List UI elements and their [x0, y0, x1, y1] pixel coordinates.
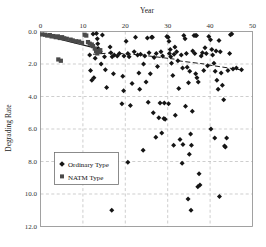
- x-tick-label: 10: [79, 22, 87, 30]
- chart-background: [0, 0, 266, 247]
- data-point-natm: [59, 59, 63, 63]
- legend-marker-square: [60, 174, 64, 178]
- y-tick-label: 2.0: [28, 60, 37, 68]
- legend: Ordinary Type NATM Type: [55, 153, 119, 185]
- y-axis-title: Degrading Rate: [4, 104, 13, 152]
- y-tick-label: 0.0: [28, 28, 37, 36]
- y-tick-label: 4.0: [28, 93, 37, 101]
- y-tick-label: 8.0: [28, 158, 37, 166]
- data-point-natm: [98, 48, 102, 52]
- y-tick-label: 10.0: [25, 190, 38, 198]
- legend-label-ordinary: Ordinary Type: [68, 161, 109, 169]
- scatter-chart: Year Degrading Rate 010203040500.02.04.0…: [0, 0, 266, 247]
- data-point-natm: [84, 33, 88, 37]
- legend-label-natm: NATM Type: [68, 174, 103, 182]
- x-axis-title: Year: [140, 6, 154, 15]
- x-tick-label: 30: [164, 22, 172, 30]
- data-point-natm: [80, 41, 84, 45]
- x-tick-label: 50: [249, 22, 257, 30]
- chart-canvas: Year Degrading Rate 010203040500.02.04.0…: [0, 0, 266, 247]
- y-tick-label: 6.0: [28, 125, 37, 133]
- data-point-natm: [65, 37, 69, 41]
- y-tick-label: 12.0: [25, 223, 38, 231]
- x-tick-label: 40: [207, 22, 215, 30]
- x-tick-label: 20: [122, 22, 130, 30]
- x-tick-label: 0: [39, 22, 43, 30]
